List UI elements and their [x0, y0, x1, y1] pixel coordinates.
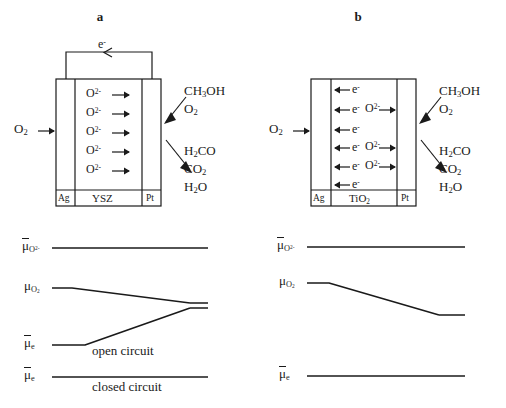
trace-mu-bar-e-open [52, 308, 208, 345]
inlet-o2-arrowhead-b [304, 128, 310, 135]
mu-bar-e-closed-label-a: μe [24, 367, 35, 383]
panel-a: a [0, 0, 253, 408]
inlet-o2-label-b: O2 [269, 122, 283, 137]
inlet-o2-label-a: O2 [14, 122, 28, 137]
electron-arrows-group-b [334, 87, 350, 189]
closed-circuit-caption: closed circuit [92, 379, 162, 395]
product-h2o-b: H2O [439, 180, 462, 195]
mu-bar-o2minus-label-b: μO2- [277, 237, 294, 253]
mu-o2-label-b: μO2 [279, 273, 295, 289]
electron-species-5-b: e- [352, 159, 360, 174]
o2minus-species-1-a: O2- [86, 86, 101, 101]
open-circuit-caption: open circuit [92, 343, 154, 359]
inlet-o2-arrowhead [49, 128, 55, 135]
electron-species-2-b: e- [352, 102, 360, 117]
product-co2-b: CO2 [439, 162, 461, 177]
o2minus-arrows-group [112, 92, 130, 175]
product-co2-a: CO2 [184, 162, 206, 177]
o2minus-species-4-a: O2- [86, 143, 101, 158]
mu-o2-label-a: μO2 [24, 278, 40, 294]
feed-in-arrowhead [164, 112, 176, 124]
product-h2o-a: H2O [184, 180, 207, 195]
feed-in-ch3oh-b: CH3OH [439, 84, 480, 99]
o2minus-species-5-a: O2- [86, 162, 101, 177]
o2minus-species-3-b: O2- [365, 158, 380, 173]
electrolyte-label-a: YSZ [92, 192, 113, 204]
electron-label-a: e- [98, 38, 106, 51]
trace-mu-o2 [52, 288, 208, 303]
mu-bar-o2minus-label-a: μO2- [22, 238, 39, 254]
electrode-left-label-b: Ag [313, 193, 325, 204]
product-h2co-a: H2CO [184, 144, 216, 159]
mu-bar-e-label-b: μe [279, 366, 290, 382]
electron-species-1-b: e- [352, 82, 360, 97]
electron-species-6-b: e- [352, 177, 360, 192]
trace-mu-o2-b [307, 283, 465, 315]
electrolyte-label-b: TiO2 [349, 192, 370, 206]
electron-species-3-b: e- [352, 122, 360, 137]
panel-b-potential-traces [307, 247, 465, 376]
electrode-right-label-a: Pt [146, 193, 154, 204]
external-circuit-wire [66, 52, 152, 79]
electron-species-4-b: e- [352, 140, 360, 155]
mu-bar-e-open-label-a: μe [24, 335, 35, 351]
electrode-left-label-a: Ag [58, 193, 70, 204]
feed-in-ch3oh-a: CH3OH [184, 84, 225, 99]
cell-outer-box [56, 79, 161, 206]
cell-outer-box-b [311, 79, 416, 206]
feed-in-o2-a: O2 [184, 102, 198, 117]
panel-b: b [253, 0, 506, 408]
o2minus-species-2-b: O2- [365, 139, 380, 154]
feed-in-o2-b: O2 [439, 102, 453, 117]
feed-in-arrowhead-b [419, 112, 431, 124]
o2minus-species-2-a: O2- [86, 105, 101, 120]
o2minus-species-3-a: O2- [86, 124, 101, 139]
electrode-right-label-b: Pt [401, 193, 409, 204]
o2minus-species-1-b: O2- [365, 101, 380, 116]
panel-b-schematic-svg [253, 0, 506, 408]
product-h2co-b: H2CO [439, 144, 471, 159]
o2minus-arrows-group-b [379, 107, 396, 171]
